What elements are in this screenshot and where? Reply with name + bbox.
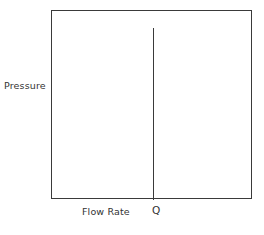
vertical-asymptote-line xyxy=(153,28,154,200)
x-axis-label: Flow Rate xyxy=(82,206,130,217)
y-axis-label: Pressure xyxy=(4,80,46,91)
q-tick-label: Q xyxy=(152,205,160,216)
pressure-flow-rate-chart: Pressure Flow Rate Q xyxy=(0,0,264,235)
plot-frame xyxy=(51,10,252,199)
